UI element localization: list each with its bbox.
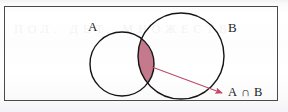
set-b-label: B [228,21,237,34]
intersection-pointer-arrow [152,67,222,93]
set-a-label: A [88,20,97,33]
intersection-label: A ∩ B [228,86,263,99]
venn-diagram-figure: ПОЛ. ДЕТ. МНОЖЕСТВ A B A ∩ B [0,0,288,112]
